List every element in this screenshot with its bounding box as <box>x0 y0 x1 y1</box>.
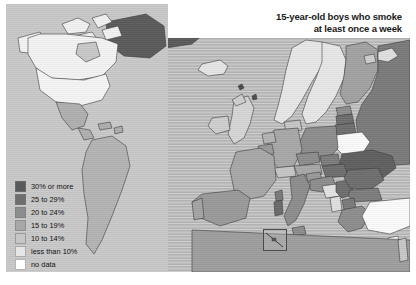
title-band: 15-year-old boys who smoke at least once… <box>168 4 410 38</box>
legend-item: 25 to 29% <box>15 193 110 206</box>
legend-label: 15 to 19% <box>31 219 64 232</box>
legend-item: 10 to 14% <box>15 232 110 245</box>
right-margin <box>410 0 416 285</box>
legend-label: less than 10% <box>31 245 77 258</box>
legend-label: 25 to 29% <box>31 193 64 206</box>
legend-label: no data <box>31 258 56 271</box>
legend-label: 20 to 24% <box>31 206 64 219</box>
legend-item: no data <box>15 258 110 271</box>
legend-label: 10 to 14% <box>31 232 64 245</box>
legend-item: 30% or more <box>15 180 110 193</box>
title-line-2: at least once a week <box>314 23 402 34</box>
legend: 30% or more 25 to 29% 20 to 24% 15 to 19… <box>15 180 110 271</box>
legend-item: less than 10% <box>15 245 110 258</box>
map-figure: 15-year-old boys who smoke at least once… <box>0 0 416 285</box>
bottom-margin <box>0 272 416 285</box>
legend-item: 15 to 19% <box>15 219 110 232</box>
legend-item: 20 to 24% <box>15 206 110 219</box>
legend-label: 30% or more <box>31 180 73 193</box>
legend-swatch <box>15 220 26 231</box>
malta-callout-line <box>264 230 286 250</box>
map-title: 15-year-old boys who smoke at least once… <box>172 11 402 34</box>
legend-swatch <box>15 259 26 270</box>
legend-swatch <box>15 194 26 205</box>
legend-swatch <box>15 207 26 218</box>
malta-callout <box>263 229 287 251</box>
legend-swatch <box>15 246 26 257</box>
left-margin <box>0 0 6 285</box>
legend-swatch <box>15 233 26 244</box>
legend-swatch <box>15 181 26 192</box>
title-line-1: 15-year-old boys who smoke <box>276 11 402 22</box>
